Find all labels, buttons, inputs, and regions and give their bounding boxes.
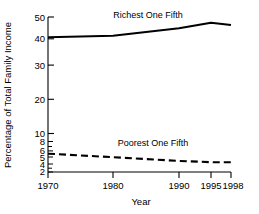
x-axis-title: Year [131,196,150,207]
annotation-poorest-one-fifth: Poorest One Fifth [118,138,189,148]
line-chart: 50 40 30 20 10 8 6 5 4 2 [0,0,259,214]
x-tick-label-1995: 1995 [200,180,221,191]
y-tick-label-50: 50 [34,12,45,23]
y-axis-title: Percentage of Total Family Income [2,22,13,168]
x-axis-ticks: 1970 1980 1990 1995 1998 [37,172,243,191]
x-tick-label-1980: 1980 [102,180,123,191]
y-tick-label-40: 40 [34,33,45,44]
annotation-richest-one-fifth: Richest One Fifth [113,10,183,20]
y-tick-label-30: 30 [34,60,45,71]
series-line-richest-one-fifth [48,23,231,37]
y-tick-label-2: 2 [40,166,45,177]
x-tick-label-1998: 1998 [222,180,243,191]
x-tick-label-1970: 1970 [37,180,58,191]
chart-figure: 50 40 30 20 10 8 6 5 4 2 [0,0,259,214]
x-tick-label-1990: 1990 [168,180,189,191]
y-tick-label-20: 20 [34,94,45,105]
series-line-poorest-one-fifth [48,154,231,163]
